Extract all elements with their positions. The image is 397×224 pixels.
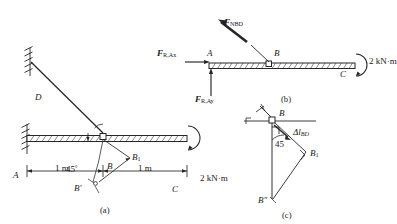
- label-point-b-c: B: [279, 109, 285, 118]
- disp-vector-b1: [99, 158, 130, 182]
- support-d-hatching: [25, 47, 33, 77]
- label-point-bprime-a: B′: [74, 184, 81, 193]
- label-point-c-b: C: [340, 70, 346, 79]
- label-moment-b: 2 kN·m: [369, 57, 397, 66]
- angle-degree-a: °: [75, 165, 77, 171]
- label-elongation-c: ΔlBD: [293, 128, 309, 137]
- node-b-c: [269, 117, 275, 123]
- label-angle-45c: 45: [275, 140, 284, 149]
- label-dim-right: 1 m: [138, 164, 152, 173]
- disp-vector-b1b: [104, 140, 130, 158]
- label-force-rax: FR,Ax: [157, 49, 176, 58]
- label-support-d: D: [35, 93, 42, 102]
- label-force-ray: FR,Ay: [195, 95, 214, 104]
- force-rax-sub: R,Ax: [163, 51, 176, 58]
- label-point-a-b: A: [207, 49, 213, 58]
- caption-a: (a): [100, 205, 110, 215]
- subfigure-a-graphic: [0, 40, 215, 224]
- deflection-curve: [93, 140, 103, 182]
- elongation-sub: BD: [301, 130, 309, 137]
- label-support-a: A: [13, 171, 19, 180]
- elongation-arrow-c: [274, 125, 291, 140]
- label-dim-left: 1 m: [55, 164, 69, 173]
- label-joint-b: B: [107, 162, 113, 171]
- subfigure-c-graphic: [236, 104, 356, 224]
- subfigure-a: D A B C 45° 2 kN·m 1 m 1 m B1 B′ (a): [0, 40, 215, 224]
- label-point-b-b: B: [274, 49, 280, 58]
- beam-ac-fbd: [209, 61, 355, 69]
- point-bprime-mark: ′: [80, 183, 82, 193]
- force-ray-sub: R,Ay: [201, 97, 214, 104]
- label-point-b1-a: B1: [132, 153, 141, 162]
- point-bsec-mark: ″: [264, 195, 268, 205]
- force-rax-arrow: [185, 60, 210, 64]
- label-end-c: C: [172, 185, 178, 194]
- beam-ac: [27, 134, 187, 142]
- caption-c: (c): [282, 210, 292, 220]
- label-moment-a: 2 kN·m: [200, 174, 228, 183]
- point-bprime-marker: [94, 182, 98, 186]
- label-point-b1-c: B1: [310, 149, 319, 158]
- point-b1-a-sub: 1: [138, 155, 141, 162]
- rod-force-stub: [251, 45, 269, 62]
- subfigure-b: FNBD FR,Ax FR,Ay A B C 2 kN·m (b): [185, 4, 393, 109]
- subfigure-c: B ΔlBD 45 B1 B″ (c): [236, 104, 356, 224]
- force-nbd-sub: NBD: [230, 20, 243, 27]
- moment-arrow-a: [188, 126, 200, 150]
- label-force-nbd: FNBD: [224, 18, 243, 27]
- point-b1-c-sub: 1: [316, 151, 319, 158]
- caption-b: (b): [281, 94, 291, 104]
- moment-arrow-b: [356, 54, 367, 76]
- force-ray-arrow: [209, 68, 213, 96]
- label-point-bsec-c: B″: [258, 196, 267, 205]
